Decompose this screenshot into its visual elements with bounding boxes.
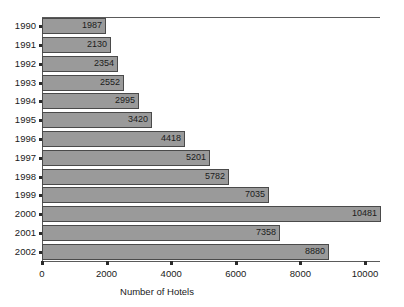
x-tick-mark-8000 xyxy=(299,261,302,265)
bar-value-label-1992: 2354 xyxy=(94,57,114,70)
bar-value-label-1995: 3420 xyxy=(128,113,148,126)
bar-1996: 4418 xyxy=(42,131,185,147)
x-tick-label-6000: 6000 xyxy=(225,268,246,280)
x-tick-mark-4000 xyxy=(170,261,173,265)
x-tick-mark-2000 xyxy=(106,261,109,265)
bar-value-label-2000: 10481 xyxy=(352,207,377,220)
bar-value-label-1994: 2995 xyxy=(115,94,135,107)
bar-value-label-1993: 2552 xyxy=(100,76,120,89)
bar-1992: 2354 xyxy=(42,56,118,72)
y-tick-label-1992: 1992 xyxy=(2,58,36,69)
y-tick-label-1997: 1997 xyxy=(2,152,36,163)
bar-rect-2000 xyxy=(42,206,381,222)
x-tick-label-10000: 10000 xyxy=(352,268,378,280)
bar-value-label-1997: 5201 xyxy=(186,151,206,164)
y-tick-label-1996: 1996 xyxy=(2,133,36,144)
y-tick-label-1991: 1991 xyxy=(2,39,36,50)
bar-value-label-2001: 7358 xyxy=(256,226,276,239)
horizontal-bar-chart: 1990199119921993199419951996199719981999… xyxy=(0,0,404,307)
y-tick-label-2001: 2001 xyxy=(2,227,36,238)
y-tick-label-1993: 1993 xyxy=(2,77,36,88)
bar-2002: 8880 xyxy=(42,244,329,260)
bar-1991: 2130 xyxy=(42,37,111,53)
bar-value-label-1990: 1987 xyxy=(82,19,102,32)
bar-value-label-1998: 5782 xyxy=(205,170,225,183)
x-tick-label-0: 0 xyxy=(39,268,44,280)
bar-1990: 1987 xyxy=(42,18,106,34)
x-axis-line xyxy=(42,261,380,262)
bar-1994: 2995 xyxy=(42,93,139,109)
y-tick-label-1995: 1995 xyxy=(2,114,36,125)
y-tick-label-1994: 1994 xyxy=(2,95,36,106)
x-tick-mark-6000 xyxy=(235,261,238,265)
bar-1993: 2552 xyxy=(42,75,124,91)
bar-rect-1998 xyxy=(42,169,229,185)
bar-1998: 5782 xyxy=(42,169,229,185)
bar-2001: 7358 xyxy=(42,225,280,241)
x-tick-mark-10000 xyxy=(364,261,367,265)
y-tick-label-1990: 1990 xyxy=(2,20,36,31)
bar-value-label-1999: 7035 xyxy=(245,188,265,201)
x-tick-label-8000: 8000 xyxy=(290,268,311,280)
bar-1995: 3420 xyxy=(42,112,152,128)
y-tick-label-1999: 1999 xyxy=(2,189,36,200)
y-tick-label-1998: 1998 xyxy=(2,171,36,182)
bar-value-label-2002: 8880 xyxy=(305,245,325,258)
x-tick-mark-0 xyxy=(41,261,44,265)
bar-value-label-1996: 4418 xyxy=(161,132,181,145)
x-tick-label-2000: 2000 xyxy=(96,268,117,280)
bar-rect-2002 xyxy=(42,244,329,260)
y-tick-label-2000: 2000 xyxy=(2,208,36,219)
bar-1997: 5201 xyxy=(42,150,210,166)
y-tick-label-2002: 2002 xyxy=(2,246,36,257)
x-axis-title: Number of Hotels xyxy=(42,286,272,298)
bar-rect-1999 xyxy=(42,187,269,203)
bar-rect-2001 xyxy=(42,225,280,241)
bar-rect-1997 xyxy=(42,150,210,166)
x-tick-label-4000: 4000 xyxy=(161,268,182,280)
bar-2000: 10481 xyxy=(42,206,381,222)
bar-value-label-1991: 2130 xyxy=(87,38,107,51)
bar-1999: 7035 xyxy=(42,187,269,203)
